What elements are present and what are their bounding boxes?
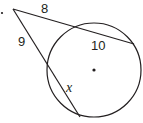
- center-point: [92, 68, 95, 71]
- label-upper-internal: 10: [91, 38, 105, 53]
- label-lower-internal: x: [65, 80, 73, 95]
- secant-diagram: 8 9 10 x: [0, 0, 143, 123]
- stray-dot: [1, 12, 3, 14]
- label-upper-external: 8: [41, 1, 48, 16]
- label-lower-external: 9: [18, 34, 25, 49]
